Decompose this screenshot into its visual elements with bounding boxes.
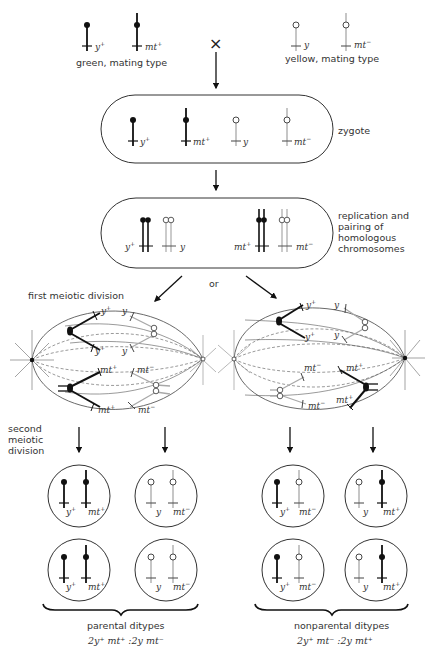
label-line: chromosomes: [338, 243, 405, 254]
gene-label: y+: [124, 240, 135, 252]
svg-text:mt+: mt+: [100, 363, 117, 375]
centriole-icon: [30, 358, 34, 362]
svg-text:y+: y+: [279, 580, 290, 592]
svg-text:mt−: mt−: [173, 505, 190, 517]
brace-nonparental-icon: [255, 604, 408, 615]
svg-text:mt−: mt−: [304, 361, 321, 373]
svg-text:mt−: mt−: [173, 580, 190, 592]
svg-text:y: y: [333, 300, 340, 310]
svg-text:mt+: mt+: [336, 393, 353, 405]
gene-label: y: [242, 137, 249, 147]
chromosome-mt-plus-icon: [132, 13, 142, 51]
svg-text:y: y: [333, 330, 340, 340]
second-meiotic-label: second meiotic division: [8, 423, 44, 456]
spore-cell: y mt+: [345, 539, 407, 601]
chromosome-mt-plus-icon: [181, 108, 191, 146]
replication-label: replication and pairing of homologous ch…: [338, 210, 409, 254]
gene-label: mt−: [294, 135, 311, 147]
replication-cell: y+ y mt+ mt−: [101, 198, 333, 268]
gene-label: y+: [94, 40, 105, 52]
chromatid-pair-mt-minus-icon: [278, 209, 292, 252]
svg-text:y: y: [155, 582, 162, 592]
svg-text:mt−: mt−: [299, 580, 316, 592]
gene-label: mt−: [296, 240, 313, 252]
svg-text:y: y: [362, 582, 369, 592]
gene-label: y+: [139, 135, 150, 147]
spore-cell: y mt+: [345, 465, 407, 527]
chromosome-y-plus-icon: [82, 22, 92, 51]
parent-green: y+ mt+ green, mating type: [76, 13, 167, 68]
svg-text:mt−: mt−: [299, 505, 316, 517]
first-meiotic-label: first meiotic division: [28, 290, 124, 301]
spore-cell: y mt−: [135, 465, 197, 527]
svg-text:y+: y+: [65, 505, 76, 517]
svg-text:y: y: [362, 507, 369, 517]
or-label: or: [209, 278, 219, 289]
brace-parental-icon: [43, 604, 198, 615]
svg-text:mt+: mt+: [383, 580, 400, 592]
svg-text:y: y: [121, 306, 128, 316]
spore-cell: y+ mt−: [262, 539, 324, 601]
gene-label: y: [179, 242, 186, 252]
label-line: division: [8, 445, 44, 456]
parent-yellow: y mt− yellow, mating type: [285, 13, 379, 64]
chromosome-y-icon: [231, 117, 241, 146]
gene-label: mt−: [354, 38, 371, 50]
gene-label: mt+: [234, 240, 251, 252]
chromosome-y-icon: [291, 22, 301, 51]
spindle-left: [10, 311, 216, 411]
chromatid-pair-y-icon: [162, 217, 176, 252]
chromosome-y-plus-icon: [128, 117, 138, 146]
gene-label: mt+: [193, 135, 210, 147]
centriole-icon: [403, 356, 407, 360]
svg-text:y+: y+: [304, 330, 315, 342]
label-line: replication and: [338, 210, 409, 221]
centriole-icon: [201, 357, 205, 361]
spore-cell: y+ mt+: [48, 465, 110, 527]
svg-text:mt+: mt+: [88, 505, 105, 517]
svg-text:mt+: mt+: [98, 403, 115, 415]
label-line: homologous: [338, 232, 396, 243]
spindle-right: [218, 303, 425, 410]
spore-cell: y+ mt+: [48, 539, 110, 601]
spore-cell: y+ mt−: [262, 465, 324, 527]
label-line: pairing of: [338, 221, 384, 232]
nonparental-label: nonparental ditypes: [294, 620, 389, 631]
parent-right-label: yellow, mating type: [285, 53, 379, 64]
svg-text:y+: y+: [279, 505, 290, 517]
svg-text:y: y: [121, 346, 128, 356]
cross-symbol: ×: [209, 34, 222, 53]
zygote-cell: y+ mt+ y mt−: [101, 95, 333, 163]
label-line: meiotic: [8, 434, 43, 445]
zygote-label: zygote: [338, 125, 370, 136]
svg-text:mt+: mt+: [383, 505, 400, 517]
svg-text:mt+: mt+: [346, 361, 363, 373]
chromatid-pair-mt-plus-icon: [255, 209, 269, 252]
centriole-icon: [232, 357, 236, 361]
parental-ratio: 2y⁺ mt⁺ :2y mt⁻: [87, 635, 164, 646]
arrow-left-branch-icon: [155, 276, 182, 301]
nonparental-ratio: 2y⁺ mt⁻ :2y mt⁺: [296, 635, 373, 646]
svg-text:y: y: [155, 507, 162, 517]
svg-text:mt−: mt−: [138, 403, 155, 415]
chromatid-pair-y-plus-icon: [139, 217, 153, 252]
chromosome-mt-minus-icon: [282, 108, 292, 146]
svg-text:y+: y+: [94, 344, 105, 356]
spore-cell: y mt−: [135, 539, 197, 601]
meiosis-diagram: y+ mt+ green, mating type × y mt− yellow…: [0, 0, 433, 651]
arrow-right-branch-icon: [246, 276, 276, 298]
svg-text:y+: y+: [65, 580, 76, 592]
svg-text:mt−: mt−: [137, 363, 154, 375]
svg-text:y+: y+: [100, 304, 111, 316]
label-line: second: [8, 423, 42, 434]
gene-label: y: [303, 40, 310, 50]
chromosome-mt-minus-icon: [341, 13, 351, 51]
parental-label: parental ditypes: [87, 620, 165, 631]
parent-left-label: green, mating type: [76, 57, 167, 68]
gene-label: mt+: [145, 40, 162, 52]
